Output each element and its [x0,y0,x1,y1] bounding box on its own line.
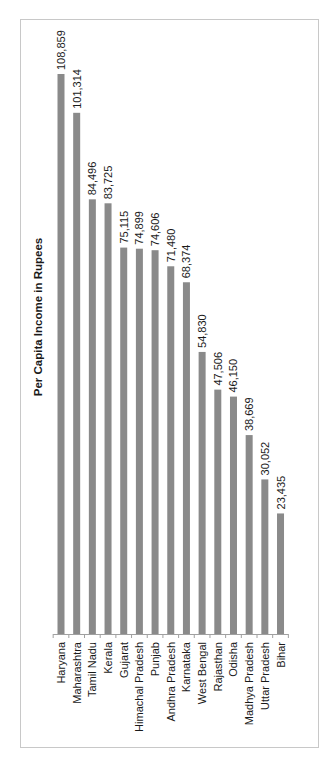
bar [183,282,190,634]
bar [167,266,174,634]
value-label: 71,480 [165,229,177,263]
value-label: 108,859 [55,30,67,70]
category-label: Andhra Pradesh [165,642,177,722]
category-label: Bihar [275,642,287,668]
category-label: West Bengal [196,642,208,704]
category-label: Uttar Pradesh [259,642,271,710]
value-label: 47,506 [212,352,224,386]
category-label: Himachal Pradesh [133,642,145,732]
bar [105,203,112,634]
value-label: 74,606 [149,213,161,247]
value-label: 83,725 [102,166,114,200]
bar [152,250,159,634]
bar [214,390,221,634]
category-label: Kerala [102,641,114,674]
value-label: 101,314 [71,69,83,109]
bar [120,248,127,634]
category-label: Haryana [55,641,67,683]
value-label: 54,830 [196,314,208,348]
bar [58,74,65,634]
bar [246,435,253,634]
chart-title-text: Per Capita Income in Rupees [32,238,44,397]
value-label: 30,052 [259,442,271,476]
category-label: Rajasthan [212,642,224,692]
chart-title: Per Capita Income in Rupees [32,238,44,397]
chart: Per Capita Income in Rupees 108,859101,3… [0,0,335,770]
value-label: 68,374 [180,245,192,279]
bar [73,113,80,634]
value-label: 38,669 [243,397,255,431]
category-label: Karnataka [180,641,192,692]
bar [277,513,284,634]
bar [89,199,96,634]
category-label: Tamil Nadu [86,642,98,697]
category-label: Punjab [149,642,161,676]
value-label: 46,150 [227,359,239,393]
value-label: 74,899 [133,211,145,245]
category-label: Odisha [227,641,239,677]
value-label: 84,496 [86,162,98,196]
bar [136,249,143,634]
value-label: 75,115 [118,211,130,244]
bar [230,397,237,634]
category-label: Maharashtra [71,641,83,704]
category-label: Gujarat [118,642,130,678]
bar [199,352,206,634]
category-label: Madhya Pradesh [243,642,255,725]
bar [261,479,268,634]
value-label: 23,435 [275,476,287,510]
